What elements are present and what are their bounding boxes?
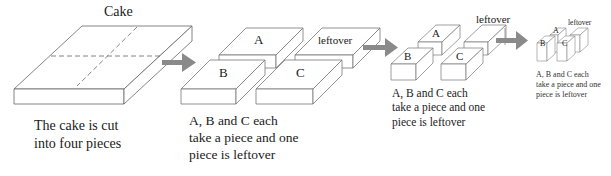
leftover-label: leftover: [568, 19, 591, 27]
piece-label-a: A: [254, 33, 263, 46]
caption-line: take a piece and one: [189, 130, 298, 147]
caption-line: A, B and C each: [392, 86, 485, 100]
piece-label-a: A: [553, 27, 559, 35]
caption-line: The cake is cut: [34, 117, 121, 135]
caption-line: take a piece and one: [392, 100, 485, 114]
piece-label-leftover: leftover: [318, 35, 352, 46]
stage-4-caption: A, B and C each take a piece and one pie…: [536, 70, 601, 100]
piece-label-c: C: [456, 51, 463, 62]
caption-line: take a piece and one: [536, 80, 601, 90]
piece-label-b: B: [540, 40, 545, 48]
piece-label-b: B: [404, 51, 411, 62]
caption-line: piece is leftover: [536, 90, 601, 100]
stage-2-caption: A, B and C each take a piece and one pie…: [189, 113, 298, 164]
piece-label-c: C: [296, 66, 305, 79]
piece-label-b: B: [219, 66, 228, 79]
caption-line: A, B and C each: [189, 113, 298, 130]
caption-line: A, B and C each: [536, 70, 601, 80]
leftover-label: leftover: [476, 14, 510, 25]
piece-label-a: A: [432, 28, 440, 39]
caption-line: piece is leftover: [189, 147, 298, 164]
cake-title: Cake: [104, 5, 133, 19]
caption-line: piece is leftover: [392, 115, 485, 129]
piece-label-c: C: [562, 40, 567, 48]
stage-1-caption: The cake is cut into four pieces: [34, 117, 121, 152]
caption-line: into four pieces: [34, 135, 121, 153]
stage-3-caption: A, B and C each take a piece and one pie…: [392, 86, 485, 129]
